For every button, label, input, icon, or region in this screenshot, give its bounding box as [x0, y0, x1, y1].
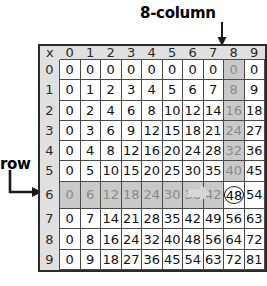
table-cell-2-3: 6	[121, 100, 142, 120]
table-cell-5-7: 35	[203, 161, 224, 181]
table-row: 8081624324048566472	[40, 229, 265, 249]
table-cell-0-6: 0	[183, 60, 204, 80]
table-cell-5-2: 10	[101, 161, 122, 181]
table-cell-3-2: 6	[101, 120, 122, 140]
table-cell-0-4: 0	[142, 60, 163, 80]
column-header-6: 6	[183, 46, 204, 60]
table-cell-4-1: 4	[80, 141, 101, 161]
table-cell-9-8: 72	[224, 249, 245, 269]
table-cell-3-6: 18	[183, 120, 204, 140]
arrow-elbow-right-icon	[6, 170, 42, 198]
table-cell-3-5: 15	[162, 120, 183, 140]
table-cell-0-7: 0	[203, 60, 224, 80]
table-cell-0-3: 0	[121, 60, 142, 80]
table-header-row: x 0 1 2 3 4 5 6 7 8 9	[40, 46, 265, 60]
table-cell-4-3: 12	[121, 141, 142, 161]
table-cell-3-8: 24	[224, 120, 245, 140]
table-cell-6-1: 6	[80, 181, 101, 209]
table-cell-7-8: 56	[224, 209, 245, 229]
table-row: 00000000000	[40, 60, 265, 80]
column-header-9: 9	[244, 46, 265, 60]
table-cell-1-8: 8	[224, 80, 245, 100]
table-row: 5051015202530354045	[40, 161, 265, 181]
row-header-6: 6	[40, 181, 60, 209]
table-body: 0000000000010123456789202468101214161830…	[40, 60, 265, 270]
table-cell-7-9: 63	[244, 209, 265, 229]
table-cell-2-6: 12	[183, 100, 204, 120]
table-row: 7071421283542495663	[40, 209, 265, 229]
table-cell-1-9: 9	[244, 80, 265, 100]
table-cell-2-9: 18	[244, 100, 265, 120]
table-cell-0-5: 0	[162, 60, 183, 80]
column-header-8: 8	[224, 46, 245, 60]
row-header-1: 1	[40, 80, 60, 100]
table-cell-4-6: 24	[183, 141, 204, 161]
table-cell-3-3: 9	[121, 120, 142, 140]
table-cell-1-2: 2	[101, 80, 122, 100]
table-cell-6-4: 24	[142, 181, 163, 209]
table-cell-2-2: 4	[101, 100, 122, 120]
table-cell-2-0: 0	[60, 100, 81, 120]
table-cell-3-7: 21	[203, 120, 224, 140]
row-header-3: 3	[40, 120, 60, 140]
table-cell-1-5: 5	[162, 80, 183, 100]
table-row: 2024681012141618	[40, 100, 265, 120]
table-cell-9-9: 81	[244, 249, 265, 269]
row-header-9: 9	[40, 249, 60, 269]
table-cell-9-5: 45	[162, 249, 183, 269]
table-cell-0-1: 0	[80, 60, 101, 80]
table-cell-0-9: 0	[244, 60, 265, 80]
table-cell-6-5: 30	[162, 181, 183, 209]
table-cell-9-0: 0	[60, 249, 81, 269]
table-cell-7-2: 14	[101, 209, 122, 229]
table-cell-1-4: 4	[142, 80, 163, 100]
column-header-0: 0	[60, 46, 81, 60]
table-cell-7-0: 0	[60, 209, 81, 229]
table-cell-8-4: 32	[142, 229, 163, 249]
table-cell-3-0: 0	[60, 120, 81, 140]
table-cell-9-3: 27	[121, 249, 142, 269]
table-cell-4-8: 32	[224, 141, 245, 161]
table-cell-0-2: 0	[101, 60, 122, 80]
table-cell-9-7: 63	[203, 249, 224, 269]
table-cell-7-3: 21	[121, 209, 142, 229]
table-cell-5-8: 40	[224, 161, 245, 181]
table-cell-1-3: 3	[121, 80, 142, 100]
table-cell-8-9: 72	[244, 229, 265, 249]
table-cell-8-1: 8	[80, 229, 101, 249]
row-header-2: 2	[40, 100, 60, 120]
row-header-4: 4	[40, 141, 60, 161]
table-row: 404812162024283236	[40, 141, 265, 161]
multiplication-table: x 0 1 2 3 4 5 6 7 8 9 000000000001012345…	[40, 46, 265, 270]
table-cell-8-5: 40	[162, 229, 183, 249]
table-cell-6-7: 42	[203, 181, 224, 209]
table-cell-6-2: 12	[101, 181, 122, 209]
table-cell-1-7: 7	[203, 80, 224, 100]
table-cell-9-1: 9	[80, 249, 101, 269]
table-cell-8-0: 0	[60, 229, 81, 249]
table-cell-0-8: 0	[224, 60, 245, 80]
table-cell-5-5: 25	[162, 161, 183, 181]
table-cell-3-1: 3	[80, 120, 101, 140]
table-cell-2-8: 16	[224, 100, 245, 120]
table-cell-6-3: 18	[121, 181, 142, 209]
table-cell-5-3: 15	[121, 161, 142, 181]
table-cell-4-2: 8	[101, 141, 122, 161]
table-cell-7-1: 7	[80, 209, 101, 229]
table-cell-5-6: 30	[183, 161, 204, 181]
column-header-1: 1	[80, 46, 101, 60]
table-cell-5-9: 45	[244, 161, 265, 181]
table-cell-4-0: 0	[60, 141, 81, 161]
column-header-4: 4	[142, 46, 163, 60]
table-cell-7-4: 28	[142, 209, 163, 229]
arrow-down-icon	[216, 22, 228, 46]
table-cell-9-2: 18	[101, 249, 122, 269]
table-corner-symbol: x	[40, 46, 60, 60]
column-annotation-label: 8-column	[140, 4, 216, 22]
table-cell-2-1: 2	[80, 100, 101, 120]
table-cell-0-0: 0	[60, 60, 81, 80]
table-cell-7-7: 49	[203, 209, 224, 229]
column-header-2: 2	[101, 46, 122, 60]
table-row: 10123456789	[40, 80, 265, 100]
table-cell-7-6: 42	[183, 209, 204, 229]
